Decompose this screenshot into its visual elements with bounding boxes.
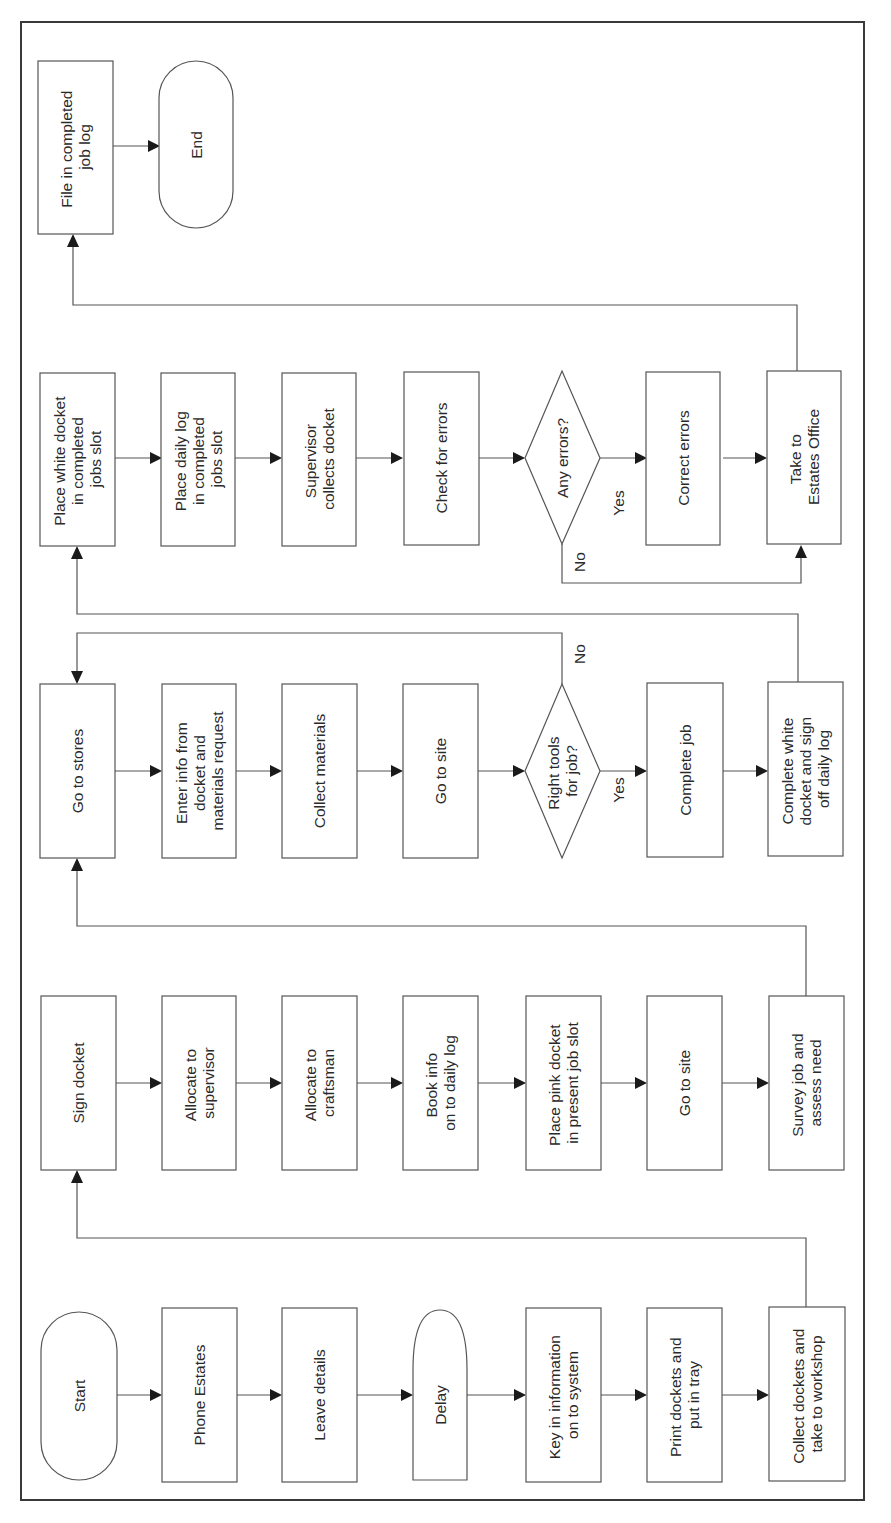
node-label: Supervisor collects docket bbox=[302, 407, 337, 509]
node-label: Go to site bbox=[676, 1050, 693, 1116]
node-leave-details: Leave details bbox=[282, 1308, 357, 1482]
node-check-errors: Check for errors bbox=[404, 372, 479, 545]
node-label: Book info on to daily log bbox=[423, 1035, 458, 1131]
node-label: Leave details bbox=[311, 1349, 328, 1441]
node-go-to-site-2: Go to site bbox=[403, 684, 478, 858]
node-enter-info: Enter info from docket and materials req… bbox=[162, 684, 236, 858]
node-delay: Delay bbox=[413, 1310, 467, 1480]
node-start: Start bbox=[41, 1312, 117, 1480]
node-place-white-docket: Place white docket in completed jobs slo… bbox=[40, 373, 115, 546]
branch-label-no: No bbox=[571, 644, 588, 664]
node-take-to-estates: Take to Estates Office bbox=[767, 371, 841, 544]
node-label: Allocate to supervisor bbox=[182, 1045, 217, 1122]
node-allocate-supervisor: Allocate to supervisor bbox=[162, 996, 236, 1170]
node-right-tools: Right tools for job? bbox=[525, 684, 600, 858]
node-end: End bbox=[159, 61, 233, 228]
node-survey-job: Survey job and assess need bbox=[769, 996, 844, 1170]
node-label: Sign docket bbox=[70, 1042, 87, 1124]
node-label: Check for errors bbox=[433, 402, 450, 513]
node-label: Collect dockets and take to workshop bbox=[790, 1324, 825, 1464]
node-label: Place pink docket in present job slot bbox=[546, 1020, 581, 1146]
branch-label-no: No bbox=[571, 552, 588, 572]
branch-label-yes: Yes bbox=[610, 490, 627, 516]
node-go-to-site-1: Go to site bbox=[647, 996, 722, 1170]
node-label: Go to stores bbox=[69, 729, 86, 814]
node-label: Go to site bbox=[432, 738, 449, 804]
node-label: Start bbox=[71, 1379, 88, 1412]
branch-label-yes: Yes bbox=[610, 777, 627, 803]
node-label: Collect materials bbox=[311, 713, 328, 828]
node-collect-materials: Collect materials bbox=[282, 684, 357, 858]
node-complete-job: Complete job bbox=[647, 683, 723, 857]
node-file-completed: File in completed job log bbox=[38, 61, 113, 234]
node-label: Survey job and assess need bbox=[789, 1029, 824, 1137]
node-supervisor-collects: Supervisor collects docket bbox=[282, 373, 356, 546]
node-label: Delay bbox=[432, 1385, 449, 1425]
node-place-pink-docket: Place pink docket in present job slot bbox=[526, 996, 601, 1170]
node-any-errors: Any errors? bbox=[525, 371, 600, 544]
node-sign-docket: Sign docket bbox=[41, 996, 116, 1170]
flowchart-canvas: Start Phone Estates Leave details Delay … bbox=[0, 0, 891, 1523]
node-place-daily-log: Place daily log in completed jobs slot bbox=[161, 373, 235, 546]
node-collect-dockets: Collect dockets and take to workshop bbox=[769, 1307, 845, 1481]
node-book-info: Book info on to daily log bbox=[403, 996, 478, 1170]
node-label: Allocate to craftsman bbox=[302, 1045, 337, 1122]
node-key-in-info: Key in information on to system bbox=[526, 1308, 601, 1482]
node-label: Any errors? bbox=[554, 418, 571, 498]
node-print-dockets: Print dockets and put in tray bbox=[647, 1308, 722, 1482]
node-go-to-stores: Go to stores bbox=[40, 684, 115, 858]
node-allocate-craftsman: Allocate to craftsman bbox=[282, 996, 357, 1170]
node-correct-errors: Correct errors bbox=[646, 372, 720, 545]
node-complete-white-docket: Complete white docket and sign off daily… bbox=[768, 682, 843, 856]
node-label: Complete job bbox=[677, 724, 694, 815]
node-label: Correct errors bbox=[675, 410, 692, 506]
node-label: Phone Estates bbox=[191, 1344, 208, 1445]
node-phone-estates: Phone Estates bbox=[162, 1308, 237, 1482]
node-label: End bbox=[188, 131, 205, 159]
